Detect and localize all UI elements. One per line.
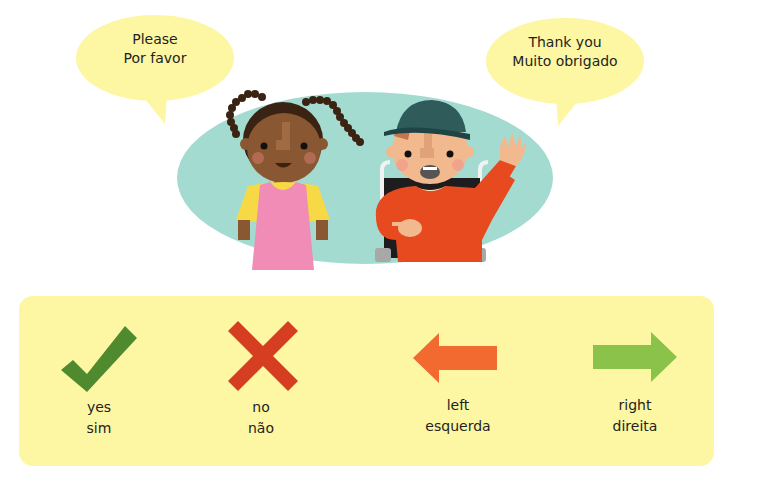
arrow-right-icon (593, 332, 678, 382)
arrow-left-icon (413, 333, 498, 383)
vocab-portuguese: não (201, 418, 321, 439)
vocab-portuguese: sim (39, 418, 159, 439)
vocab-item-right: right direita (575, 296, 695, 466)
vocab-portuguese: direita (575, 416, 695, 437)
check-icon (59, 322, 139, 392)
vocab-english: yes (39, 397, 159, 418)
vocab-item-yes: yes sim (39, 296, 159, 466)
cross-icon (228, 321, 298, 391)
vocab-portuguese: esquerda (398, 416, 518, 437)
vocab-item-left: left esquerda (398, 296, 518, 466)
vocab-item-no: no não (201, 296, 321, 466)
vocab-english: no (201, 397, 321, 418)
vocab-english: right (575, 395, 695, 416)
bubble-english-text: Please (75, 30, 235, 49)
bubble-portuguese-text: Por favor (75, 49, 235, 68)
children-illustration (170, 70, 560, 270)
vocabulary-panel: yes sim no não left esquerda right direi… (19, 296, 714, 466)
vocab-english: left (398, 395, 518, 416)
bubble-english-text: Thank you (484, 33, 646, 52)
bubble-portuguese-text: Muito obrigado (484, 52, 646, 71)
